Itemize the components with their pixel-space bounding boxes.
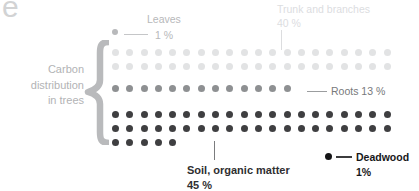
dot-row-soil-1 (112, 111, 398, 125)
dot (155, 63, 162, 70)
dot (141, 85, 148, 92)
dot (312, 63, 319, 70)
callout-roots-label: Roots 13 % (331, 85, 385, 97)
callout-trunk-label: Trunk and branches (277, 2, 370, 16)
dot (312, 49, 319, 56)
dot (384, 49, 391, 56)
corner-letter-fragment: e (2, 0, 19, 22)
dot (369, 49, 376, 56)
dot (212, 85, 219, 92)
dot (241, 111, 248, 118)
dot (298, 49, 305, 56)
dot (169, 63, 176, 70)
leader-line-soil (214, 141, 215, 160)
dot (269, 125, 276, 132)
dot (126, 49, 133, 56)
dot (241, 125, 248, 132)
callout-soil-label: Soil, organic matter (187, 163, 290, 178)
callout-trunk: Trunk and branches 40 % (277, 2, 370, 30)
dot (126, 139, 133, 146)
dot (198, 125, 205, 132)
leader-line-trunk (281, 30, 282, 50)
chart-title-left: Carbon distribution in trees (0, 62, 84, 109)
dot (212, 49, 219, 56)
dot (369, 63, 376, 70)
dot (284, 49, 291, 56)
dot (155, 49, 162, 56)
dot (312, 111, 319, 118)
callout-soil-value: 45 % (187, 178, 290, 191)
dot (241, 85, 248, 92)
dot (255, 125, 262, 132)
dot (369, 111, 376, 118)
dot-row-soil-2 (112, 125, 398, 139)
dot (212, 125, 219, 132)
dot (141, 63, 148, 70)
dot (355, 49, 362, 56)
dot (198, 85, 205, 92)
callout-leaves-value: 1 % (155, 29, 173, 41)
dot (384, 111, 391, 118)
dot (112, 29, 118, 35)
dot (169, 49, 176, 56)
dot-row-trunk-2 (112, 63, 398, 77)
dot (183, 125, 190, 132)
dot (255, 111, 262, 118)
dot-row-trunk-1 (112, 49, 398, 63)
dot (198, 63, 205, 70)
dot (112, 63, 119, 70)
dot (326, 49, 333, 56)
dot (384, 63, 391, 70)
dot (126, 85, 133, 92)
dot (126, 125, 133, 132)
dot (169, 85, 176, 92)
dot-row-roots (112, 85, 298, 99)
chart-title-line-3: in trees (0, 93, 84, 109)
dot (369, 125, 376, 132)
dot (141, 49, 148, 56)
dot (126, 63, 133, 70)
dot-row-soil-3 (112, 139, 183, 153)
dot (141, 111, 148, 118)
dot (284, 85, 291, 92)
dot (226, 125, 233, 132)
dot (169, 139, 176, 146)
dot (326, 111, 333, 118)
dot (155, 111, 162, 118)
dot (169, 125, 176, 132)
callout-leaves-label: Leaves (147, 13, 181, 25)
callout-deadwood-label: Deadwood (356, 150, 409, 165)
dot (284, 111, 291, 118)
infographic-canvas: e Carbon distribution in trees Leaves 1 … (0, 0, 419, 190)
dot (241, 63, 248, 70)
dot (326, 125, 333, 132)
dot (112, 85, 119, 92)
dot (255, 49, 262, 56)
dot (198, 111, 205, 118)
chart-title-line-2: distribution (0, 78, 84, 94)
dot (155, 139, 162, 146)
chart-title-line-1: Carbon (0, 62, 84, 78)
dot (169, 111, 176, 118)
dot (241, 49, 248, 56)
dot (341, 63, 348, 70)
leader-line-deadwood (336, 156, 352, 158)
dot (284, 63, 291, 70)
dot (269, 63, 276, 70)
dot (384, 125, 391, 132)
leader-line-roots (307, 91, 327, 92)
dot (298, 111, 305, 118)
dot (298, 125, 305, 132)
dot (183, 111, 190, 118)
dot (212, 111, 219, 118)
dot (269, 49, 276, 56)
dot (155, 85, 162, 92)
dot (141, 139, 148, 146)
dot (355, 63, 362, 70)
callout-deadwood: Deadwood 1% (356, 150, 409, 180)
dot (155, 125, 162, 132)
dot (226, 111, 233, 118)
dot (112, 139, 119, 146)
dot (341, 111, 348, 118)
callout-trunk-value: 40 % (277, 16, 370, 30)
